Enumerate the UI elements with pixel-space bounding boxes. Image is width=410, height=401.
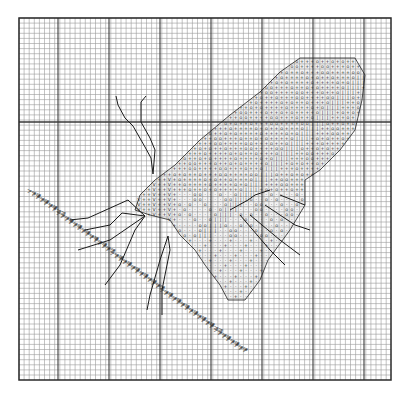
chart-canvas: VVV++++++++++VVVVVVV++++++++++++++++++VV… bbox=[0, 0, 410, 401]
svg-text:>: > bbox=[243, 346, 248, 354]
